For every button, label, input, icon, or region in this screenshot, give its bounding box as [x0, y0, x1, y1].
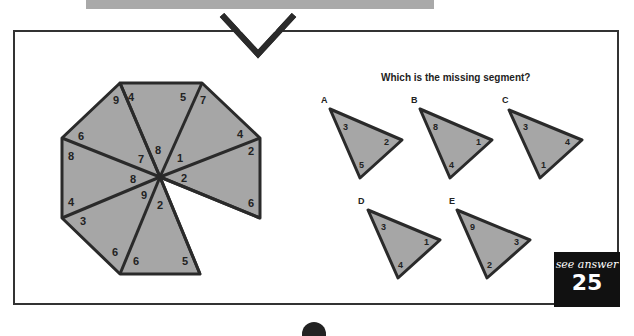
- svg-text:4: 4: [68, 196, 75, 208]
- option-a-label: A: [321, 95, 328, 105]
- svg-text:4: 4: [565, 137, 570, 147]
- option-b[interactable]: 814: [420, 109, 492, 178]
- svg-text:3: 3: [343, 122, 348, 132]
- option-d[interactable]: 314: [368, 210, 440, 278]
- svg-text:3: 3: [523, 122, 528, 132]
- svg-text:5: 5: [180, 91, 186, 103]
- svg-text:2: 2: [248, 145, 254, 157]
- svg-text:1: 1: [177, 152, 183, 164]
- svg-text:7: 7: [200, 94, 206, 106]
- option-e-label: E: [449, 196, 455, 206]
- svg-text:4: 4: [128, 91, 135, 103]
- svg-text:7: 7: [138, 153, 144, 165]
- svg-text:8: 8: [433, 122, 438, 132]
- svg-text:2: 2: [384, 137, 389, 147]
- svg-text:6: 6: [78, 130, 84, 142]
- svg-text:3: 3: [381, 222, 386, 232]
- svg-text:8: 8: [155, 144, 161, 156]
- svg-text:1: 1: [541, 160, 546, 170]
- octagon-puzzle: 94 8 57 1 42 2 6 56 2 63 9 48 8 6 7: [62, 83, 260, 274]
- svg-text:4: 4: [237, 128, 244, 140]
- option-b-label: B: [411, 95, 418, 105]
- svg-text:3: 3: [514, 237, 519, 247]
- svg-text:6: 6: [133, 255, 139, 267]
- svg-text:5: 5: [182, 255, 188, 267]
- svg-text:5: 5: [359, 160, 364, 170]
- svg-text:1: 1: [424, 237, 429, 247]
- svg-text:8: 8: [130, 173, 136, 185]
- option-c-label: C: [502, 95, 509, 105]
- option-a[interactable]: 325: [330, 109, 402, 178]
- svg-text:2: 2: [157, 199, 163, 211]
- svg-text:6: 6: [248, 197, 254, 209]
- option-c[interactable]: 341: [509, 110, 582, 178]
- option-d-label: D: [358, 196, 365, 206]
- svg-text:2: 2: [487, 260, 492, 270]
- svg-text:2: 2: [181, 172, 187, 184]
- chevron-icon: [222, 15, 294, 54]
- svg-text:8: 8: [68, 150, 74, 162]
- svg-text:9: 9: [470, 222, 475, 232]
- svg-text:1: 1: [476, 137, 481, 147]
- svg-text:6: 6: [112, 246, 118, 258]
- answer-number: 25: [554, 271, 620, 295]
- see-answer-badge[interactable]: see answer 25: [554, 252, 620, 307]
- question-text: Which is the missing segment?: [381, 72, 530, 83]
- option-e[interactable]: 932: [457, 210, 530, 278]
- svg-text:4: 4: [398, 260, 403, 270]
- svg-text:4: 4: [449, 160, 454, 170]
- svg-text:3: 3: [80, 215, 86, 227]
- svg-text:9: 9: [141, 189, 147, 201]
- svg-text:9: 9: [113, 94, 119, 106]
